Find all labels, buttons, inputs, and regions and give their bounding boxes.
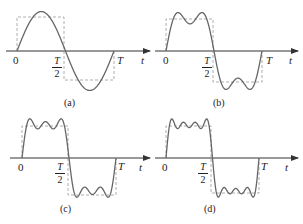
axis-label-a: t [141,55,144,66]
half-period-label-a: T2 [52,56,62,79]
half-period-label-b: T2 [202,56,212,79]
period-label-b: T [266,55,272,66]
square-wave-a [17,17,114,80]
origin-label-a: 0 [13,55,19,66]
caption-b: (b) [213,97,225,108]
axis-label-b: t [289,55,292,66]
caption-d: (d) [204,203,216,214]
half-period-label-c: T2 [55,162,65,185]
axis-label-c: t [139,162,142,173]
half-period-label-d: T2 [198,162,208,185]
panel-c [10,119,150,197]
panel-a [6,12,150,91]
fourier-square-wave-figure [0,0,303,224]
caption-a: (a) [64,97,75,108]
caption-c: (c) [60,203,71,214]
origin-label-b: 0 [163,55,169,66]
axis-label-d: t [285,162,288,173]
origin-label-d: 0 [162,162,168,173]
panel-b [155,13,298,90]
period-label-a: T [117,55,123,66]
period-label-c: T [118,161,124,172]
period-label-d: T [261,161,267,172]
origin-label-c: 0 [18,162,24,173]
panel-d [155,119,298,197]
